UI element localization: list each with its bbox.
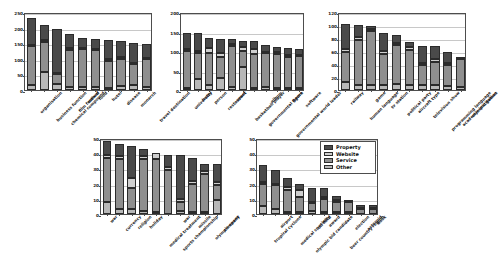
bar xyxy=(259,138,268,214)
y-tick-label: 30 xyxy=(249,168,255,172)
y-tick-label: 50 xyxy=(93,138,99,142)
bar-segment-website xyxy=(344,200,353,202)
bar-segment-website xyxy=(354,37,363,40)
bar-segment-property xyxy=(139,149,148,157)
bar-segment-website xyxy=(164,167,173,170)
legend-label: Service xyxy=(336,158,357,163)
y-tick-mark xyxy=(255,170,257,171)
bar-segment-service xyxy=(283,190,292,213)
bar xyxy=(205,12,213,90)
legend-label: Other xyxy=(336,165,352,170)
bar-segment-service xyxy=(430,62,439,85)
bar-segment-property xyxy=(430,46,439,59)
bar-segment-property xyxy=(142,44,151,58)
bar-segment-website xyxy=(176,199,185,202)
bar-segment-website xyxy=(405,47,414,50)
bar-segment-service xyxy=(344,202,353,213)
y-tick-label: 40 xyxy=(93,153,99,157)
bar-segment-property xyxy=(332,196,341,201)
bar-segment-service xyxy=(308,203,317,211)
bar-segment-property xyxy=(188,158,197,181)
y-tick-mark xyxy=(99,140,101,141)
bar-segment-service xyxy=(40,42,49,72)
bar-segment-property xyxy=(40,25,49,40)
y-tick-label: 10 xyxy=(93,199,99,203)
y-tick-label: 100 xyxy=(14,59,23,63)
bar xyxy=(176,138,185,214)
y-tick-label: 0 xyxy=(20,90,23,94)
y-tick-mark xyxy=(337,14,339,15)
bar-segment-service xyxy=(115,159,124,209)
y-tick-mark xyxy=(337,79,339,80)
bar-segment-property xyxy=(354,25,363,37)
bar xyxy=(127,138,136,214)
y-tick-label: 200 xyxy=(14,27,23,31)
bar-segment-property xyxy=(443,52,452,62)
bar-segment-property xyxy=(216,39,224,53)
y-tick-mark xyxy=(99,201,101,202)
bar-segment-service xyxy=(392,45,401,84)
bar-segment-website xyxy=(40,40,49,42)
chart-legend: PropertyWebsiteServiceOther xyxy=(320,141,376,174)
bar-segment-property xyxy=(65,34,74,47)
bar-segment-website xyxy=(430,59,439,62)
bar-segment-property xyxy=(392,35,401,43)
bar-segment-website xyxy=(341,49,350,52)
bar-segment-property xyxy=(308,188,317,202)
bar-segment-other xyxy=(239,67,247,90)
y-tick-label: 20 xyxy=(249,183,255,187)
x-tick-label: company xyxy=(223,215,241,233)
bar xyxy=(430,12,439,90)
y-tick-label: 30 xyxy=(93,168,99,172)
x-tick-label: person xyxy=(214,91,228,105)
bar-segment-service xyxy=(273,54,281,88)
y-tick-label: 40 xyxy=(249,153,255,157)
bar-segment-website xyxy=(103,155,112,158)
bar xyxy=(65,12,74,90)
legend-swatch-property xyxy=(324,145,333,150)
bar xyxy=(443,12,452,90)
x-axis-labels: warcurrencyreligionholidaymedical treatm… xyxy=(101,214,221,254)
bar-segment-service xyxy=(405,50,414,86)
bar-segment-website xyxy=(183,49,191,51)
bar-segment-website xyxy=(284,55,292,57)
legend-item-property: Property xyxy=(324,145,372,151)
bar-segment-property xyxy=(271,170,280,184)
bar xyxy=(91,12,100,90)
plot-area-2: 050100150200universityhotelpersonrestaur… xyxy=(180,13,304,91)
chart-panel-4: 01020304050warcurrencyreligionholidaymed… xyxy=(100,139,222,215)
y-tick-mark xyxy=(337,27,339,28)
bar-segment-website xyxy=(78,47,87,49)
legend-label: Property xyxy=(336,145,361,150)
bar-segment-service xyxy=(152,159,161,212)
bar-segment-website xyxy=(139,156,148,159)
bar xyxy=(194,12,202,90)
bar xyxy=(341,12,350,90)
bar-segment-website xyxy=(379,51,388,54)
bar-segment-service xyxy=(271,185,280,209)
bar-segment-property xyxy=(341,24,350,49)
bar xyxy=(129,12,138,90)
bar-segment-property xyxy=(250,41,258,50)
bar-segment-service xyxy=(259,184,268,207)
y-tick-label: 40 xyxy=(331,64,337,68)
y-tick-mark xyxy=(179,34,181,35)
bar-segment-property xyxy=(228,39,236,44)
y-tick-mark xyxy=(255,186,257,187)
x-tick-label: software xyxy=(305,91,322,108)
bar-segment-property xyxy=(379,33,388,51)
bar-segment-service xyxy=(78,49,87,86)
bar-segment-service xyxy=(91,50,100,87)
bar-segment-property xyxy=(356,205,365,208)
y-tick-mark xyxy=(99,186,101,187)
x-tick-label: railway xyxy=(350,91,365,106)
bar-segment-service xyxy=(250,54,258,88)
bar xyxy=(52,12,61,90)
bar-segment-website xyxy=(418,63,427,66)
y-tick-mark xyxy=(255,140,257,141)
bar xyxy=(354,12,363,90)
bar-segment-service xyxy=(216,57,224,78)
legend-label: Website xyxy=(336,152,359,157)
y-tick-mark xyxy=(23,76,25,77)
bar-segment-service xyxy=(366,31,375,86)
